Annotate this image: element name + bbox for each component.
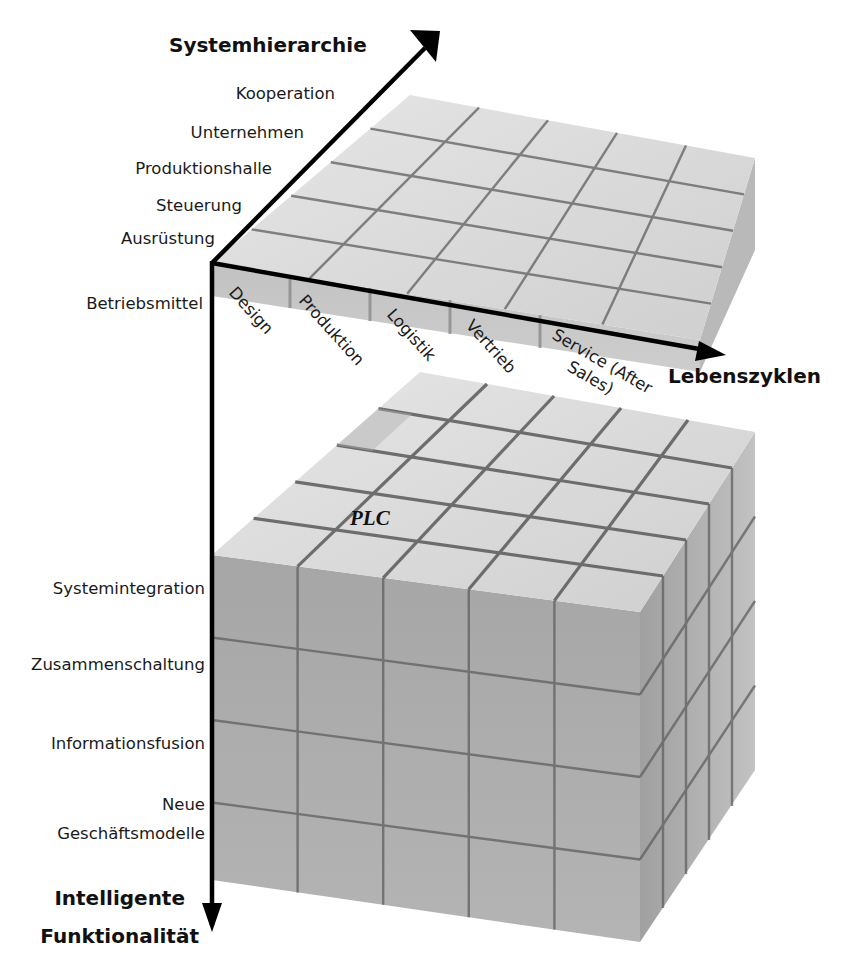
system-hierarchy-title: Systemhierarchie [169, 33, 367, 57]
level-informationsfusion: Informationsfusion [51, 734, 205, 753]
cube-model-diagram: Systemhierarchie Lebenszyklen Intelligen… [0, 0, 848, 971]
level-geschaeftsmodelle: Geschäftsmodelle [57, 824, 205, 843]
level-steuerung: Steuerung [156, 196, 242, 215]
level-produktionshalle: Produktionshalle [135, 159, 272, 178]
functionality-title-line1: Intelligente [54, 886, 185, 910]
level-neue: Neue [162, 795, 205, 814]
level-unternehmen: Unternehmen [191, 123, 304, 142]
level-kooperation: Kooperation [236, 84, 335, 103]
functionality-arrowhead-icon [202, 903, 222, 932]
level-zusammenschaltung: Zusammenschaltung [31, 655, 205, 674]
level-betriebsmittel: Betriebsmittel [86, 294, 203, 313]
lifecycle-title: Lebenszyklen [668, 364, 821, 388]
level-ausruestung: Ausrüstung [121, 229, 215, 248]
plc-label: PLC [349, 506, 391, 530]
functionality-levels: Systemintegration Zusammenschaltung Info… [31, 579, 205, 843]
level-systemintegration: Systemintegration [53, 579, 205, 598]
functionality-title-line2: Funktionalität [40, 924, 199, 948]
lower-cube [212, 372, 755, 942]
